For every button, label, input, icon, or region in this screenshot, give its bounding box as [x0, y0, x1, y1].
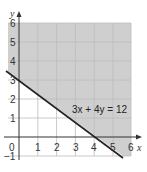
x-tick-6: 6 — [128, 142, 134, 153]
y-tick-2: 2 — [10, 94, 16, 105]
x-tick-2: 2 — [54, 142, 60, 153]
shaded-region — [8, 23, 131, 156]
y-tick-3: 3 — [10, 75, 16, 86]
x-axis-arrow-icon — [136, 135, 142, 140]
x-tick-3: 3 — [73, 142, 79, 153]
x-axis-label: x — [136, 142, 142, 153]
x-tick-1: 1 — [35, 142, 41, 153]
y-tick-6: 6 — [10, 18, 16, 29]
y-tick-4: 4 — [10, 56, 16, 67]
y-tick-1: 1 — [10, 113, 16, 124]
y-axis-arrow-icon — [17, 11, 22, 17]
x-tick-4: 4 — [91, 142, 97, 153]
equation-label: 3x + 4y = 12 — [72, 104, 127, 115]
inequality-graph: y x 0 1 2 3 4 5 6 6 5 4 3 2 1 −1 3x + 4y… — [0, 0, 147, 172]
y-tick-neg1: −1 — [4, 151, 16, 162]
y-tick-5: 5 — [10, 37, 16, 48]
x-tick-5: 5 — [110, 142, 116, 153]
